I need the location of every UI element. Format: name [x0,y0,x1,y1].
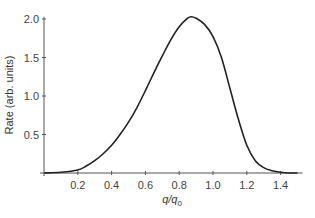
x-tick-label: 0.4 [104,179,119,191]
y-tick-label: 1.5 [24,52,39,64]
x-tick-label: 1.0 [205,179,220,191]
y-tick-label: 0.5 [24,129,39,141]
x-axis-label-main: q/q [162,193,178,205]
x-tick-label: 0.8 [172,179,187,191]
x-tick-label: 0.2 [70,179,85,191]
chart: 0.20.40.60.81.01.21.40.51.01.52.0 Rate (… [0,0,315,218]
rate-curve [44,17,298,173]
x-tick-label: 1.4 [273,179,288,191]
x-tick-label: 0.6 [138,179,153,191]
ticks: 0.20.40.60.81.01.21.40.51.01.52.0 [24,13,289,191]
y-tick-label: 1.0 [24,90,39,102]
axes [40,17,303,176]
y-axis-label: Rate (arb. units) [3,56,15,135]
x-axis-label: q/q0 [162,193,182,208]
x-tick-label: 1.2 [239,179,254,191]
x-axis-label-sub: 0 [177,199,182,208]
y-tick-label: 2.0 [24,13,39,25]
